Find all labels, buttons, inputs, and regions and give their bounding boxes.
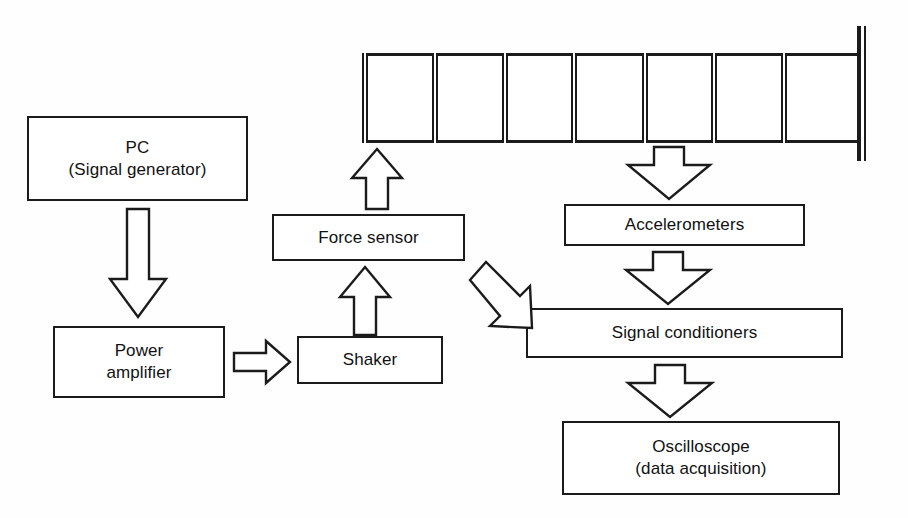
block-power-amplifier-label-line2: amplifier — [106, 362, 171, 384]
beam-fixed-support — [857, 26, 866, 161]
beam-divider-0 — [362, 53, 368, 143]
block-oscilloscope-label-line2: (data acquisition) — [635, 458, 766, 480]
arrow-signal-conditioners-to-oscilloscope — [626, 363, 714, 419]
beam-divider-5 — [711, 53, 717, 143]
block-power-amplifier-label-line1: Power — [115, 340, 164, 362]
block-accelerometers-label: Accelerometers — [625, 214, 745, 236]
block-oscilloscope-label-line1: Oscilloscope — [652, 436, 750, 458]
block-accelerometers[interactable]: Accelerometers — [564, 204, 805, 246]
block-signal-conditioners-label: Signal conditioners — [612, 322, 758, 344]
arrow-pc-to-power-amplifier — [109, 207, 167, 319]
arrow-force-sensor-to-signal-conditioners — [468, 258, 544, 334]
arrow-power-amplifier-to-shaker — [232, 339, 292, 385]
beam-divider-1 — [432, 53, 438, 143]
beam-divider-6 — [781, 53, 787, 143]
block-pc[interactable]: PC (Signal generator) — [27, 116, 248, 201]
block-diagram-canvas: PC (Signal generator) Power amplifier Sh… — [0, 0, 908, 518]
block-force-sensor-label: Force sensor — [318, 227, 418, 249]
arrow-force-sensor-to-beam — [350, 147, 404, 211]
cantilever-beam — [360, 26, 880, 161]
block-shaker[interactable]: Shaker — [297, 336, 443, 384]
block-pc-label-line1: PC — [126, 137, 150, 159]
block-shaker-label: Shaker — [343, 349, 397, 371]
block-power-amplifier[interactable]: Power amplifier — [53, 326, 225, 398]
arrow-beam-to-accelerometers — [626, 145, 712, 201]
beam-divider-3 — [571, 53, 577, 143]
arrow-accelerometers-to-signal-conditioners — [624, 250, 712, 306]
beam-divider-4 — [642, 53, 648, 143]
block-pc-label-line2: (Signal generator) — [69, 159, 207, 181]
beam-divider-2 — [502, 53, 508, 143]
block-signal-conditioners[interactable]: Signal conditioners — [526, 308, 843, 358]
block-oscilloscope[interactable]: Oscilloscope (data acquisition) — [562, 421, 840, 495]
arrow-shaker-to-force-sensor — [338, 265, 392, 337]
block-force-sensor[interactable]: Force sensor — [272, 214, 465, 261]
